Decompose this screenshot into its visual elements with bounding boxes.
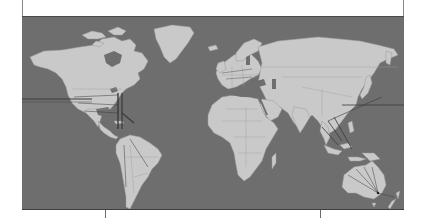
- route-node-sydney: [377, 192, 379, 194]
- world-map-icon: [22, 17, 404, 210]
- caspian-sea: [272, 79, 276, 89]
- world-map: [22, 16, 404, 210]
- tick-mark-left: [105, 210, 106, 218]
- tick-mark-right: [320, 210, 321, 218]
